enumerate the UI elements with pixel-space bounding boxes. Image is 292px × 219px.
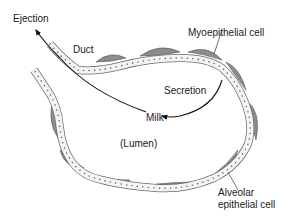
- lumen-label: (Lumen): [120, 138, 157, 149]
- duct-label: Duct: [73, 44, 94, 55]
- ejection-label: Ejection: [13, 13, 49, 24]
- myoepithelial-cell-label: Myoepithelial cell: [188, 27, 264, 38]
- milk-label: Milk: [146, 112, 164, 123]
- secretion-label: Secretion: [164, 85, 206, 96]
- alveolar-label-line1: Alveolar: [218, 187, 254, 198]
- alveolus-diagram: Ejection Duct Myoepithelial cell Secreti…: [0, 0, 292, 219]
- alveolar-label-line2: epithelial cell: [218, 199, 275, 210]
- epithelial-layer: [34, 44, 250, 188]
